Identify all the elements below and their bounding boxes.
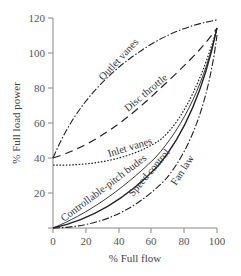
y-axis [48,18,53,228]
x-axis [53,228,217,233]
curve-fan-law [53,35,217,228]
y-tick-40: 40 [34,152,46,164]
y-tick-labels: 120 100 80 60 40 20 [29,12,46,199]
y-axis-title: % Full load power [10,82,22,164]
x-tick-60: 60 [146,235,158,247]
y-tick-100: 100 [29,47,46,59]
label-inlet-vanes: Inlet vanes [106,135,153,159]
y-tick-80: 80 [34,82,46,94]
x-tick-labels: 0 20 40 60 80 100 [50,235,226,247]
label-outlet-vanes: Outlet vanes [96,36,140,82]
x-tick-20: 20 [81,235,93,247]
x-tick-0: 0 [50,235,56,247]
x-tick-80: 80 [179,235,191,247]
y-tick-120: 120 [29,12,46,24]
y-tick-20: 20 [34,187,46,199]
label-disc-throttle: Disc throttle [122,71,169,113]
x-axis-title: % Full flow [109,252,162,264]
y-tick-60: 60 [34,117,46,129]
x-tick-100: 100 [209,235,226,247]
x-tick-40: 40 [114,235,126,247]
chart-canvas: 120 100 80 60 40 20 0 20 40 60 80 100 % … [0,0,241,276]
